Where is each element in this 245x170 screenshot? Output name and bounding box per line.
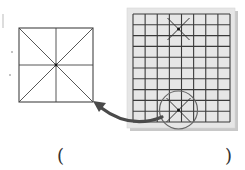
edge-mark [2, 14, 4, 28]
center-dot [55, 64, 58, 67]
answer-paren-left: ( [57, 146, 64, 166]
edge-dot [9, 74, 11, 76]
diagram-canvas [0, 0, 245, 170]
answer-paren-right: ) [225, 146, 232, 166]
cross-center-dot [177, 28, 180, 31]
edge-dot [11, 51, 13, 53]
mi-zi-ge-square [19, 28, 93, 102]
cross-center-dot [177, 109, 180, 112]
grid-board [127, 8, 238, 131]
figure: ( ) [0, 0, 245, 170]
answer-blank[interactable] [70, 146, 220, 168]
